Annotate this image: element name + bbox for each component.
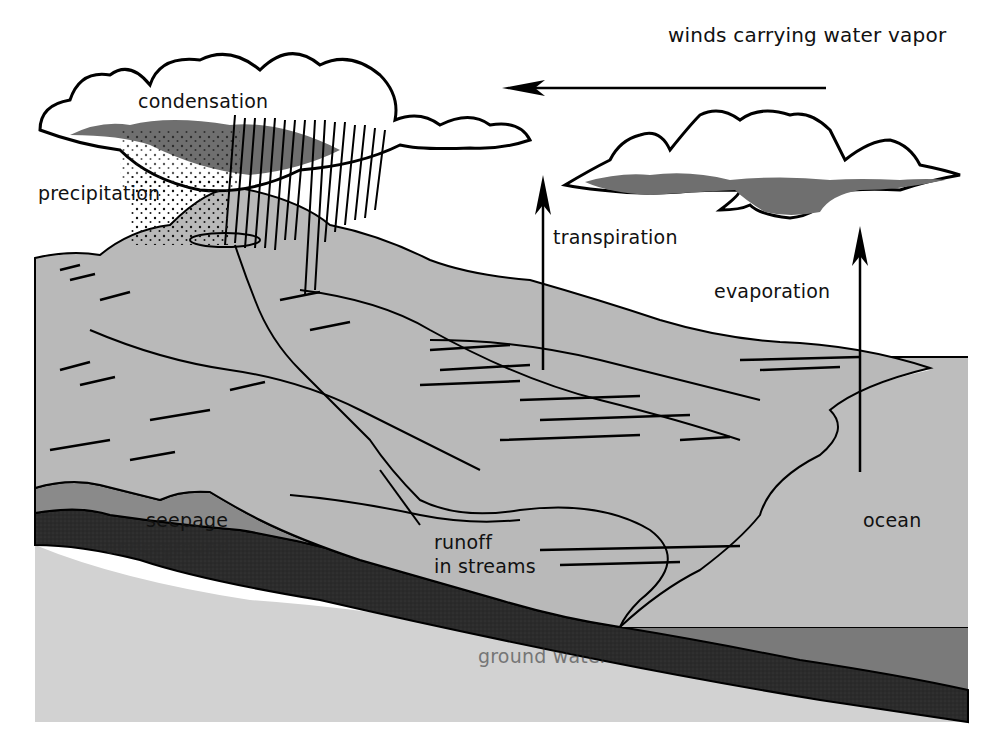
evaporation-label: evaporation	[714, 280, 830, 302]
vapor-cloud	[565, 111, 960, 218]
water-cycle-diagram: winds carrying water vapor condensation …	[0, 0, 993, 752]
condensation-label: condensation	[138, 90, 268, 112]
transpiration-label: transpiration	[553, 226, 678, 248]
ground-water-label: ground water	[478, 645, 608, 667]
diagram-artwork	[0, 0, 993, 752]
underground-label: underground	[105, 536, 230, 558]
seepage-label: seepage	[146, 509, 228, 531]
winds-arrow-icon	[502, 80, 826, 96]
runoff-label-line1: runoff	[434, 530, 536, 554]
winds-label: winds carrying water vapor	[668, 23, 946, 47]
runoff-label-line2: in streams	[434, 554, 536, 578]
runoff-label: runoff in streams	[434, 530, 536, 578]
ocean-label: ocean	[863, 509, 921, 531]
precipitation-label: precipitation	[38, 182, 160, 204]
